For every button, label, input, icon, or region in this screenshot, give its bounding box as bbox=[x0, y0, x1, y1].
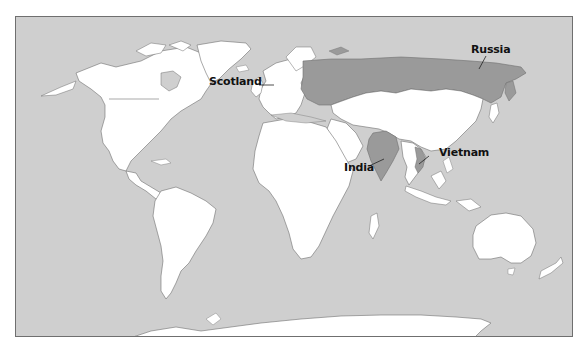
label-scotland: Scotland bbox=[209, 75, 262, 88]
world-map-frame: Russia Scotland India Vietnam bbox=[15, 16, 573, 337]
label-india: India bbox=[344, 161, 374, 174]
world-map bbox=[16, 17, 572, 336]
label-russia: Russia bbox=[471, 43, 510, 56]
label-vietnam: Vietnam bbox=[439, 146, 489, 159]
